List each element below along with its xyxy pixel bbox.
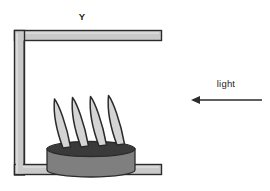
label-light: light (217, 78, 236, 89)
pedestal (47, 142, 135, 178)
frame-top-bar (15, 31, 162, 41)
diagram-canvas: Y light (0, 0, 270, 191)
light-experiment-diagram: Y light (0, 0, 270, 191)
label-y: Y (79, 11, 86, 22)
